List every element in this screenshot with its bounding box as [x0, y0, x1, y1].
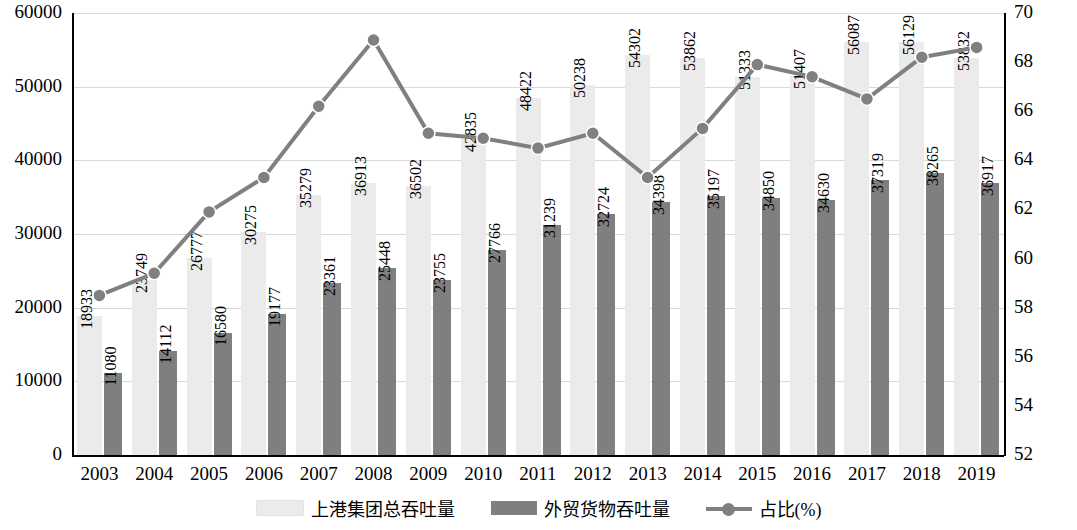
- x-axis-tick-label: 2010: [456, 463, 511, 485]
- x-axis-tick-label: 2004: [127, 463, 182, 485]
- legend-swatch-total-icon: [256, 500, 304, 516]
- legend-swatch-foreign-icon: [491, 501, 537, 515]
- y-axis-left-tick: 0: [0, 443, 62, 465]
- legend-item: 外贸货物吞吐量: [491, 495, 670, 521]
- x-axis-tick-label: 2019: [949, 463, 1004, 485]
- x-axis-tick-label: 2012: [565, 463, 620, 485]
- legend-label: 上港集团总吞吐量: [311, 500, 455, 520]
- y-axis-right-tick: 66: [1014, 99, 1074, 121]
- x-axis-tick-label: 2011: [511, 463, 566, 485]
- y-axis-right-tick: 60: [1014, 247, 1074, 269]
- y-axis-left-tick: 10000: [0, 369, 62, 391]
- y-axis-left-tick: 30000: [0, 222, 62, 244]
- x-axis-tick-label: 2003: [72, 463, 127, 485]
- chart-container: 1893311080237491411226777165803027519177…: [0, 0, 1077, 530]
- legend-item: 上港集团总吞吐量: [256, 495, 455, 521]
- y-axis-left-tick: 60000: [0, 1, 62, 23]
- x-axis-tick-label: 2018: [894, 463, 949, 485]
- y-axis-right-tick: 64: [1014, 148, 1074, 170]
- x-axis-tick-label: 2009: [401, 463, 456, 485]
- x-axis-tick-label: 2007: [291, 463, 346, 485]
- y-axis-left-tick: 20000: [0, 296, 62, 318]
- x-axis-tick-label: 2016: [785, 463, 840, 485]
- chart-legend: 上港集团总吞吐量外贸货物吞吐量占比(%): [0, 495, 1077, 521]
- x-axis-tick-label: 2017: [840, 463, 895, 485]
- y-axis-right-line: [1004, 13, 1006, 456]
- x-axis-tick-label: 2008: [346, 463, 401, 485]
- y-axis-right-tick: 54: [1014, 394, 1074, 416]
- legend-label: 占比(%): [759, 500, 822, 520]
- y-axis-right-tick: 62: [1014, 197, 1074, 219]
- y-axis-right-tick: 70: [1014, 1, 1074, 23]
- y-axis-right-tick: 68: [1014, 50, 1074, 72]
- x-axis-tick-label: 2013: [620, 463, 675, 485]
- y-axis-right-tick: 52: [1014, 443, 1074, 465]
- x-axis-tick-label: 2015: [730, 463, 785, 485]
- x-axis-tick-label: 2014: [675, 463, 730, 485]
- ratio-line-series: [0, 0, 1077, 530]
- legend-label: 外贸货物吞吐量: [544, 500, 670, 520]
- x-axis-tick-label: 2005: [182, 463, 237, 485]
- y-axis-left-line: [72, 13, 74, 456]
- y-axis-left-tick: 50000: [0, 75, 62, 97]
- x-axis-tick-label: 2006: [236, 463, 291, 485]
- legend-item: 占比(%): [706, 495, 822, 521]
- y-axis-left-tick: 40000: [0, 148, 62, 170]
- legend-line-marker-icon: [706, 501, 752, 515]
- y-axis-right-tick: 58: [1014, 296, 1074, 318]
- y-axis-right-tick: 56: [1014, 345, 1074, 367]
- x-axis-line: [72, 455, 1004, 457]
